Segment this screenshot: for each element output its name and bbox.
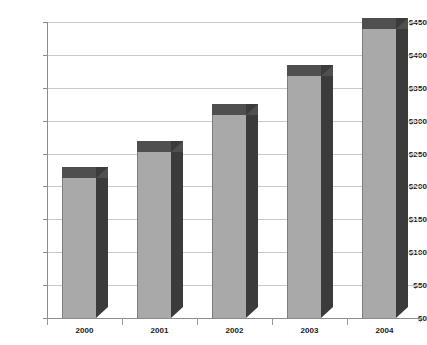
x-axis-separator bbox=[122, 318, 123, 325]
bar-top-face bbox=[362, 18, 396, 29]
x-axis-separator bbox=[347, 318, 348, 325]
bar-2001 bbox=[137, 152, 171, 318]
bar-side-foot bbox=[396, 307, 408, 318]
bar-top-cap bbox=[171, 141, 183, 152]
plot-area bbox=[47, 22, 422, 318]
x-axis-tick-label: 2004 bbox=[375, 326, 393, 335]
bar-side-foot bbox=[171, 307, 183, 318]
x-axis-separator bbox=[272, 318, 273, 325]
bar-2004 bbox=[362, 29, 396, 318]
bar-top-cap bbox=[321, 65, 333, 76]
bar-front-face bbox=[287, 76, 321, 318]
bar-top-face bbox=[137, 141, 171, 152]
bar-2000 bbox=[62, 178, 96, 318]
bar-side-foot bbox=[321, 307, 333, 318]
bar-front-face bbox=[137, 152, 171, 318]
bar-front-face bbox=[362, 29, 396, 318]
y-axis-spine bbox=[47, 22, 48, 319]
bar-front-face bbox=[62, 178, 96, 318]
bar-top-cap bbox=[96, 167, 108, 178]
bar-side-foot bbox=[96, 307, 108, 318]
bar-chart: $0$50$100$150$200$250$300$350$400$450 20… bbox=[0, 0, 427, 345]
x-axis-separator bbox=[47, 318, 48, 325]
bar-top-cap bbox=[246, 104, 258, 115]
x-axis-tick-label: 2000 bbox=[75, 326, 93, 335]
x-axis-separator bbox=[197, 318, 198, 325]
bar-2003 bbox=[287, 76, 321, 318]
bar-side-face bbox=[321, 65, 333, 307]
x-axis-line bbox=[47, 318, 422, 319]
bar-top-face bbox=[212, 104, 246, 115]
bar-side-face bbox=[246, 104, 258, 307]
x-axis-tick-label: 2003 bbox=[300, 326, 318, 335]
bar-front-face bbox=[212, 115, 246, 318]
bar-side-face bbox=[396, 18, 408, 307]
bar-top-face bbox=[287, 65, 321, 76]
bar-side-face bbox=[171, 141, 183, 307]
bar-side-face bbox=[96, 167, 108, 307]
bar-top-cap bbox=[396, 18, 408, 29]
bar-side-foot bbox=[246, 307, 258, 318]
x-axis-tick-label: 2002 bbox=[225, 326, 243, 335]
bar-top-face bbox=[62, 167, 96, 178]
bar-2002 bbox=[212, 115, 246, 318]
x-axis-tick-label: 2001 bbox=[150, 326, 168, 335]
